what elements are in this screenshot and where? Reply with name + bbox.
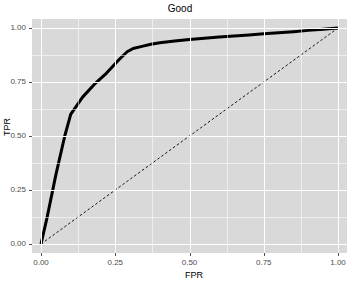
- y-tick-label: 0.75: [0, 77, 26, 86]
- x-tick-mark: [41, 253, 42, 256]
- y-tick-label: 0.25: [0, 185, 26, 194]
- chart-title: Good: [0, 3, 360, 15]
- x-tick-mark: [115, 253, 116, 256]
- x-tick-label: 1.00: [318, 258, 358, 267]
- y-tick-label: 0.00: [0, 239, 26, 248]
- gridline-major-horizontal: [32, 244, 347, 245]
- x-tick-label: 0.75: [244, 258, 284, 267]
- gridline-major-horizontal: [32, 190, 347, 191]
- plot-panel: [32, 19, 347, 253]
- x-tick-label: 0.00: [21, 258, 61, 267]
- gridline-major-horizontal: [32, 82, 347, 83]
- gridline-major-horizontal: [32, 136, 347, 137]
- x-axis-title: FPR: [41, 270, 347, 280]
- y-tick-label: 0.50: [0, 131, 26, 140]
- y-tick-label: 1.00: [0, 23, 26, 32]
- gridline-major-horizontal: [32, 28, 347, 29]
- x-tick-mark: [264, 253, 265, 256]
- x-tick-mark: [338, 253, 339, 256]
- x-tick-label: 0.25: [95, 258, 135, 267]
- y-axis-title: TPR: [2, 107, 12, 147]
- x-tick-mark: [190, 253, 191, 256]
- roc-chart: Good TPR FPR 0.000.250.500.751.00 0.000.…: [0, 0, 360, 285]
- x-tick-label: 0.50: [170, 258, 210, 267]
